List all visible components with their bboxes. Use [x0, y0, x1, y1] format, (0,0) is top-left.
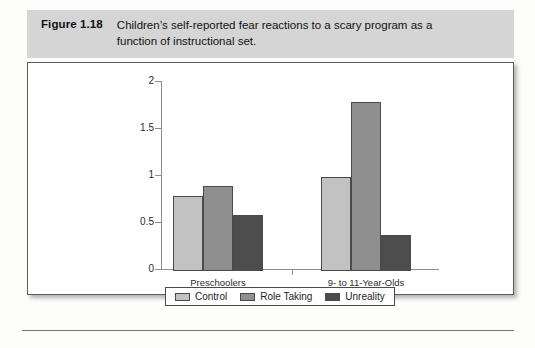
legend-label: Role Taking — [260, 291, 312, 302]
legend-swatch-icon — [175, 293, 190, 301]
bar-control — [321, 177, 351, 271]
x-axis-midpoint-tick — [292, 269, 293, 275]
y-axis-tick — [155, 222, 161, 223]
figure-caption-band: Figure 1.18 Children’s self-reported fea… — [27, 10, 514, 58]
legend-swatch-icon — [325, 293, 340, 301]
y-axis-tick-label: 1 — [112, 169, 154, 180]
figure-box: 00.511.52 Preschoolers9- to 11-Year-Olds… — [27, 62, 514, 295]
bar-control — [173, 196, 203, 271]
legend-swatch-icon — [240, 293, 255, 301]
y-axis-line — [161, 81, 162, 269]
y-axis-tick-label: 0 — [112, 263, 154, 274]
bar-unreality — [233, 215, 263, 271]
y-axis-tick — [155, 269, 161, 270]
figure-number-label: Figure 1.18 — [27, 18, 103, 30]
y-axis-tick-label: 2 — [112, 75, 154, 86]
chart-plot-area: 00.511.52 Preschoolers9- to 11-Year-Olds — [134, 81, 439, 271]
page-bottom-rule — [22, 330, 514, 331]
bar-role-taking — [203, 186, 233, 271]
legend-label: Unreality — [345, 291, 384, 302]
chart-legend: ControlRole TakingUnreality — [165, 287, 395, 306]
bar-role-taking — [351, 102, 381, 271]
y-axis-tick-label: 0.5 — [112, 216, 154, 227]
legend-item-role-taking: Role Taking — [240, 291, 312, 302]
y-axis-tick — [155, 128, 161, 129]
y-axis-tick-label: 1.5 — [112, 122, 154, 133]
bar-unreality — [381, 235, 411, 271]
legend-item-control: Control — [175, 291, 227, 302]
y-axis-tick — [155, 81, 161, 82]
figure-caption-text: Children’s self-reported fear reactions … — [103, 18, 457, 49]
legend-item-unreality: Unreality — [325, 291, 384, 302]
legend-label: Control — [195, 291, 227, 302]
y-axis-tick — [155, 175, 161, 176]
